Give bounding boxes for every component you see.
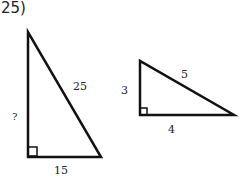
left-base-label: 15 [54,165,68,176]
right-hypotenuse-label: 5 [181,69,188,80]
right-leg-label: 3 [121,85,128,96]
left-right-angle-marker [28,147,37,156]
right-base-label: 4 [168,124,175,135]
left-triangle [28,32,101,157]
left-hypotenuse-label: 25 [73,81,87,92]
diagram: 25) ? 25 15 3 5 4 [0,0,242,177]
left-leg-unknown-label: ? [12,112,17,122]
